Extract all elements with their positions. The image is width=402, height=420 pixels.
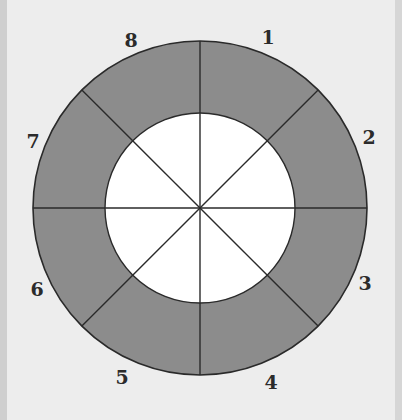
sector-label-3: 3 xyxy=(358,272,371,294)
sector-label-6: 6 xyxy=(30,278,43,300)
sector-label-4: 4 xyxy=(264,371,277,393)
sector-label-8: 8 xyxy=(124,29,137,51)
ring-diagram: 1 2 3 4 5 6 7 8 xyxy=(0,0,402,420)
sector-label-2: 2 xyxy=(362,126,375,148)
diagram-frame: 1 2 3 4 5 6 7 8 xyxy=(0,0,402,420)
sector-dividers xyxy=(33,41,367,375)
sector-label-1: 1 xyxy=(261,26,274,48)
sector-label-5: 5 xyxy=(115,366,128,388)
sector-label-7: 7 xyxy=(26,130,39,152)
